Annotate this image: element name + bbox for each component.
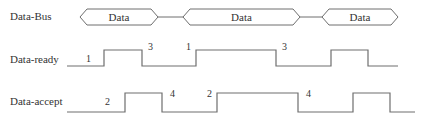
data-ready-trace xyxy=(67,50,398,66)
data-accept-waveform: 2424 xyxy=(67,88,415,112)
bus-segment-label: Data xyxy=(109,11,130,23)
data-ready-step-label: 1 xyxy=(186,41,191,52)
bus-segment-label: Data xyxy=(231,11,252,23)
data-accept-step-label: 2 xyxy=(105,96,110,107)
waveforms: DataDataData 1313 2424 xyxy=(0,0,430,120)
timing-diagram: Data-Bus Data-ready Data-accept DataData… xyxy=(0,0,430,120)
data-accept-step-label: 4 xyxy=(306,88,311,99)
data-ready-step-label: 3 xyxy=(282,41,287,52)
data-ready-waveform: 1313 xyxy=(67,41,398,66)
data-accept-trace xyxy=(67,93,415,112)
data-bus-waveform: DataDataData xyxy=(80,9,398,25)
data-ready-step-label: 1 xyxy=(86,53,91,64)
bus-segment-label: Data xyxy=(350,11,371,23)
data-ready-step-label: 3 xyxy=(148,41,153,52)
data-accept-step-label: 2 xyxy=(207,88,212,99)
data-accept-step-label: 4 xyxy=(170,88,175,99)
